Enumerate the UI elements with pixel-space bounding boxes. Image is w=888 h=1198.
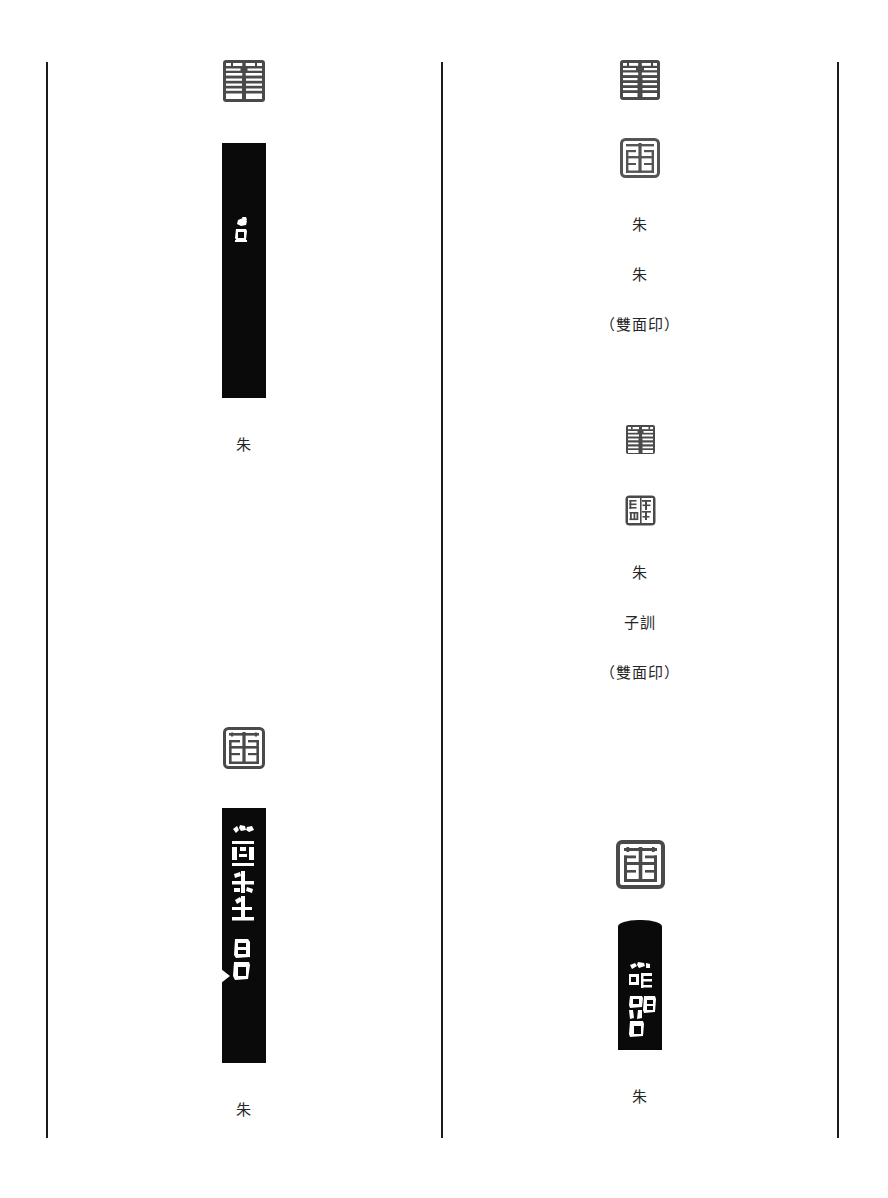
- catalogue-page: 朱: [0, 0, 888, 1198]
- caption-line: 子訓: [443, 611, 837, 636]
- entry-caption-2: 朱: [47, 1073, 441, 1148]
- seal-impression-3-verso[interactable]: [620, 138, 660, 178]
- catalogue-entry-5: 朱: [443, 840, 837, 1135]
- caption-line: 朱: [47, 1098, 441, 1123]
- seal-impression-5[interactable]: [616, 840, 665, 889]
- caption-line: 朱: [443, 213, 837, 238]
- caption-line: 朱: [47, 433, 441, 458]
- seal-impression-4-recto[interactable]: [625, 424, 656, 455]
- side-rubbing-1[interactable]: [222, 143, 266, 398]
- side-rubbing-5[interactable]: [618, 920, 662, 1050]
- catalogue-entry-4: 朱 子訓 （雙面印）: [443, 424, 837, 711]
- caption-line: 朱: [443, 1085, 837, 1110]
- seal-impression-2[interactable]: [223, 727, 265, 769]
- caption-line: 朱: [443, 263, 837, 288]
- catalogue-entry-3: 朱 朱 （雙面印）: [443, 0, 837, 363]
- right-column-rule: [837, 62, 839, 1138]
- catalogue-entry-1: 朱: [47, 0, 441, 483]
- left-column: 朱: [47, 0, 441, 1198]
- entry-caption-3: 朱 朱 （雙面印）: [443, 188, 837, 363]
- caption-line: （雙面印）: [443, 313, 837, 338]
- caption-line: 朱: [443, 561, 837, 586]
- entry-caption-4: 朱 子訓 （雙面印）: [443, 536, 837, 711]
- caption-line: （雙面印）: [443, 661, 837, 686]
- entry-caption-5: 朱: [443, 1060, 837, 1135]
- catalogue-entry-2: 朱: [47, 727, 441, 1148]
- seal-impression-4-verso[interactable]: [625, 495, 656, 526]
- entry-caption-1: 朱: [47, 408, 441, 483]
- side-rubbing-2[interactable]: [222, 808, 266, 1063]
- right-column: 朱 朱 （雙面印）: [443, 0, 837, 1198]
- seal-impression-1[interactable]: [222, 59, 266, 103]
- seal-impression-3-recto[interactable]: [619, 59, 661, 101]
